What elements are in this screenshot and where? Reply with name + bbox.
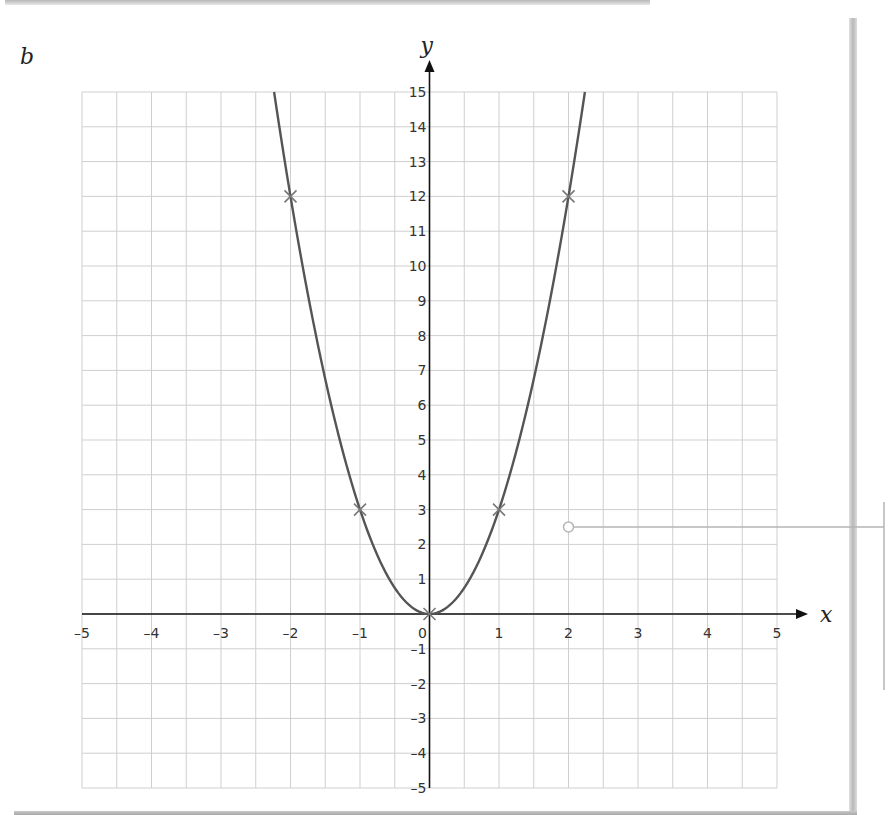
y-tick-label: 13	[409, 154, 427, 170]
y-tick-label: –5	[411, 780, 427, 796]
x-axis-arrow-icon	[796, 609, 808, 619]
annotation-dot-icon	[564, 522, 574, 532]
y-axis-arrow-icon	[425, 60, 435, 72]
y-tick-label: 7	[418, 362, 427, 378]
annotation	[564, 502, 885, 690]
x-tick-label: –1	[352, 625, 368, 641]
y-tick-label: 8	[418, 328, 427, 344]
x-tick-label: –4	[144, 625, 160, 641]
axes: xy	[82, 33, 833, 788]
y-tick-label: –1	[411, 641, 427, 657]
origin-label: 0	[418, 625, 427, 641]
y-tick-label: 1	[418, 571, 427, 587]
x-axis-label: x	[820, 602, 833, 627]
x-tick-label: 3	[634, 625, 643, 641]
y-tick-label: 3	[418, 502, 427, 518]
y-tick-label: 14	[409, 119, 427, 135]
y-tick-label: 2	[418, 536, 427, 552]
x-tick-label: 2	[564, 625, 573, 641]
y-tick-label: 11	[409, 223, 427, 239]
y-tick-label: 12	[409, 188, 427, 204]
x-tick-label: –2	[283, 625, 299, 641]
y-tick-label: 6	[418, 397, 427, 413]
x-tick-label: –5	[74, 625, 90, 641]
chart: xy –5–4–3–2–1123450151413121110987654321…	[0, 0, 889, 815]
y-tick-label: –3	[411, 710, 427, 726]
x-tick-label: 5	[773, 625, 782, 641]
y-tick-label: 9	[418, 293, 427, 309]
y-tick-label: 10	[409, 258, 427, 274]
x-tick-label: 4	[703, 625, 712, 641]
y-tick-label: 5	[418, 432, 427, 448]
y-axis-label: y	[420, 33, 434, 58]
y-tick-label: 4	[418, 467, 427, 483]
y-tick-label: –4	[411, 745, 427, 761]
x-tick-label: –3	[213, 625, 229, 641]
y-tick-label: 15	[409, 84, 427, 100]
y-tick-label: –2	[411, 676, 427, 692]
x-tick-label: 1	[495, 625, 504, 641]
